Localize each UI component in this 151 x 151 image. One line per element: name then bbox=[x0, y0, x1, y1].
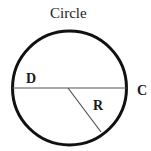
diagram-title: Circle bbox=[50, 6, 87, 21]
radius-label: R bbox=[93, 99, 103, 113]
circle-diagram: Circle D C R bbox=[0, 0, 151, 151]
circumference-label: C bbox=[137, 84, 147, 98]
circle-figure bbox=[0, 0, 151, 151]
diameter-label: D bbox=[26, 72, 36, 86]
